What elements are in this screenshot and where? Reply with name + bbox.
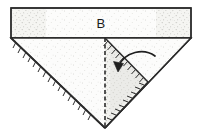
figure-canvas: B: [0, 0, 203, 138]
main-triangle-outline: [11, 38, 191, 128]
panel-label-b: B: [96, 16, 105, 31]
band-left-shading: [12, 9, 46, 37]
band-right-shading: [156, 9, 190, 37]
origami-diagram-figure: B: [0, 0, 203, 138]
main-downward-triangle: [11, 38, 191, 128]
